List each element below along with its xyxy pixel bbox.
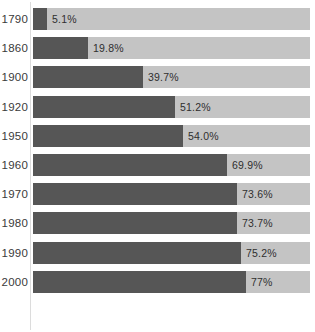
- year-axis-label: 2000: [0, 271, 28, 293]
- bar-row: 198073.7%: [0, 212, 315, 234]
- year-axis-label: 1970: [0, 183, 28, 205]
- bar-value-label: 51.2%: [180, 96, 211, 118]
- year-axis-label: 1980: [0, 212, 28, 234]
- bar-fill: [33, 8, 47, 30]
- year-axis-label: 1860: [0, 37, 28, 59]
- bar-value-label: 77%: [251, 271, 273, 293]
- bar-track: [33, 37, 310, 59]
- year-axis-label: 1920: [0, 96, 28, 118]
- bar-value-label: 54.0%: [188, 125, 219, 147]
- bar-fill: [33, 183, 237, 205]
- bar-fill: [33, 96, 175, 118]
- bar-value-label: 73.6%: [242, 183, 273, 205]
- bar-row: 190039.7%: [0, 66, 315, 88]
- bar-row: 195054.0%: [0, 125, 315, 147]
- bar-fill: [33, 125, 183, 147]
- bar-row: 196069.9%: [0, 154, 315, 176]
- bar-row: 197073.6%: [0, 183, 315, 205]
- bar-track: [33, 125, 310, 147]
- bar-fill: [33, 154, 227, 176]
- bar-fill: [33, 242, 241, 264]
- bar-row: 199075.2%: [0, 242, 315, 264]
- bar-fill: [33, 212, 237, 234]
- bar-value-label: 73.7%: [242, 212, 273, 234]
- bar-value-label: 69.9%: [232, 154, 263, 176]
- bar-row: 200077%: [0, 271, 315, 293]
- bar-track: [33, 154, 310, 176]
- bar-value-label: 5.1%: [52, 8, 77, 30]
- year-axis-label: 1990: [0, 242, 28, 264]
- bar-value-label: 19.8%: [93, 37, 124, 59]
- bar-value-label: 39.7%: [148, 66, 179, 88]
- bar-row: 17905.1%: [0, 8, 315, 30]
- bar-fill: [33, 271, 246, 293]
- bar-chart: 17905.1%186019.8%190039.7%192051.2%19505…: [0, 0, 315, 332]
- bar-row: 186019.8%: [0, 37, 315, 59]
- bar-row: 192051.2%: [0, 96, 315, 118]
- bar-fill: [33, 37, 88, 59]
- year-axis-label: 1790: [0, 8, 28, 30]
- year-axis-label: 1950: [0, 125, 28, 147]
- bar-rows-container: 17905.1%186019.8%190039.7%192051.2%19505…: [0, 0, 315, 332]
- bar-fill: [33, 66, 143, 88]
- bar-value-label: 75.2%: [246, 242, 277, 264]
- bar-track: [33, 96, 310, 118]
- year-axis-label: 1960: [0, 154, 28, 176]
- year-axis-label: 1900: [0, 66, 28, 88]
